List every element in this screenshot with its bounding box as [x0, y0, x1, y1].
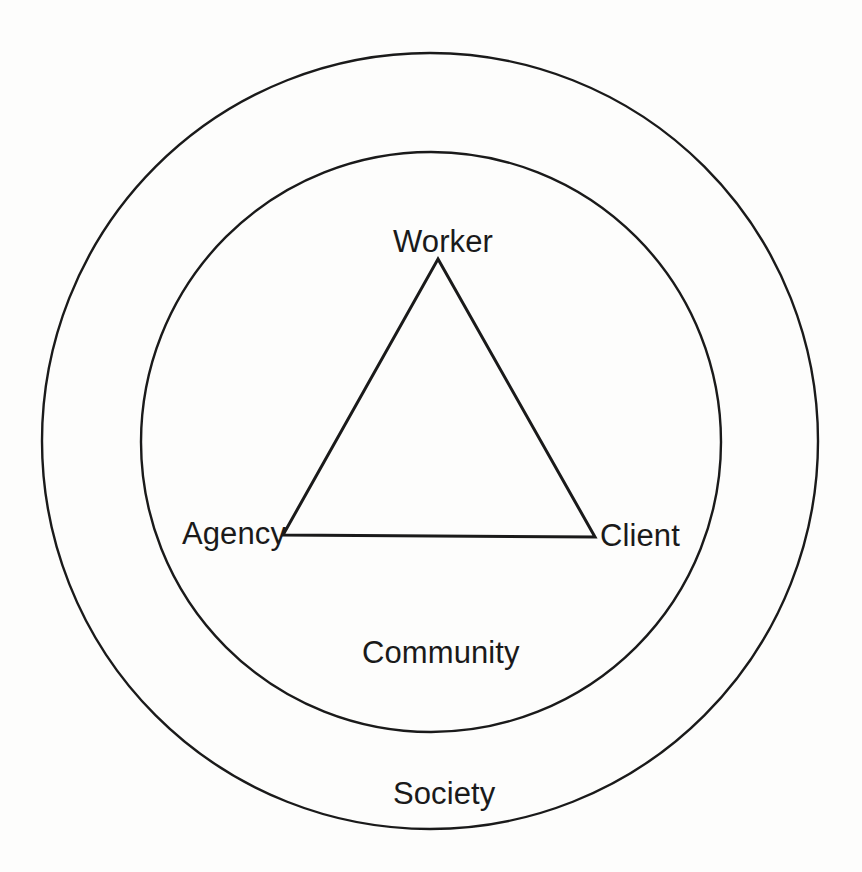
diagram-canvas: Worker Agency Client Community Society	[0, 0, 862, 872]
ring-label-community: Community	[362, 637, 520, 668]
ring-label-society: Society	[393, 778, 495, 809]
core-triangle	[283, 259, 595, 537]
diagram-graphics	[0, 0, 862, 872]
vertex-label-agency: Agency	[182, 518, 286, 549]
outer-ring-society	[42, 53, 818, 829]
vertex-label-worker: Worker	[393, 226, 493, 257]
vertex-label-client: Client	[600, 520, 680, 551]
